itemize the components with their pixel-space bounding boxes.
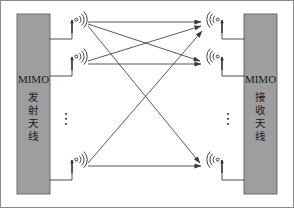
mimo-diagram-canvas: MIMO 发 射 天 线 MIMO 接 收 天 线	[0, 0, 294, 208]
receive-block-latin-label: MIMO	[244, 74, 277, 85]
transmit-block-latin-label: MIMO	[17, 74, 50, 85]
receive-cjk-char-2: 收	[244, 105, 277, 116]
transmit-cjk-char-4: 线	[17, 131, 50, 142]
transmit-cjk-char-1: 发	[17, 92, 50, 103]
transmit-block-cjk-label: 发 射 天 线	[17, 89, 50, 141]
receive-cjk-char-1: 接	[244, 92, 277, 103]
receive-block-cjk-label: 接 收 天 线	[244, 89, 277, 141]
receive-cjk-char-3: 天	[244, 118, 277, 129]
transmit-cjk-char-2: 射	[17, 105, 50, 116]
receive-cjk-char-4: 线	[244, 131, 277, 142]
transmit-cjk-char-3: 天	[17, 118, 50, 129]
